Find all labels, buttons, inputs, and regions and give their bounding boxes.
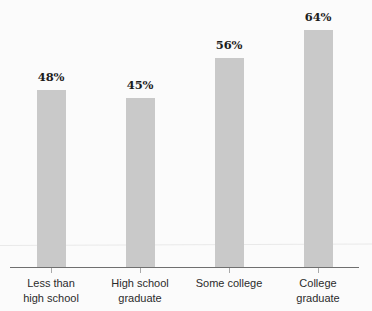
bar-college-graduate[interactable] xyxy=(304,30,333,268)
x-axis-tick-4 xyxy=(318,268,319,273)
value-label-high-school-graduate: 45% xyxy=(110,78,170,92)
x-axis-tick-3 xyxy=(229,268,230,273)
bar-high-school-graduate[interactable] xyxy=(126,98,155,268)
value-label-some-college: 56% xyxy=(199,38,259,52)
x-axis-label-less-than-high-school: Less than high school xyxy=(3,276,99,305)
x-axis-label-line-1: College xyxy=(270,276,366,291)
x-axis-label-line-1: Some college xyxy=(181,276,277,291)
value-label-less-than-high-school: 48% xyxy=(21,70,81,84)
x-axis-label-some-college: Some college xyxy=(181,276,277,291)
x-axis-label-line-2: graduate xyxy=(270,291,366,306)
x-axis-label-line-2: high school xyxy=(3,291,99,306)
bar-chart: 48% 45% 56% 64% Less than high school Hi… xyxy=(0,0,372,311)
x-axis-label-college-graduate: College graduate xyxy=(270,276,366,305)
bar-less-than-high-school[interactable] xyxy=(37,90,66,268)
x-axis-tick-1 xyxy=(51,268,52,273)
bar-some-college[interactable] xyxy=(215,58,244,268)
plot-area: 48% 45% 56% 64% Less than high school Hi… xyxy=(0,0,372,311)
x-axis-label-line-1: High school xyxy=(92,276,188,291)
value-label-college-graduate: 64% xyxy=(288,10,348,24)
x-axis-label-high-school-graduate: High school graduate xyxy=(92,276,188,305)
x-axis-label-line-1: Less than xyxy=(3,276,99,291)
x-axis-label-line-2: graduate xyxy=(92,291,188,306)
x-axis-tick-2 xyxy=(140,268,141,273)
x-axis-line xyxy=(10,267,359,268)
